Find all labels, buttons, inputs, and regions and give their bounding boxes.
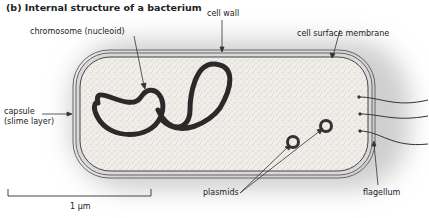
label-capsule: capsule [4,107,35,117]
scale-bar [8,189,151,196]
label-cell-wall: cell wall [207,9,239,19]
label-plasmids: plasmids [203,188,239,198]
label-flagellum: flagellum [363,188,400,198]
label-slime-layer: (slime layer) [4,117,54,127]
cell-surface-membrane [80,57,368,171]
label-scale-bar: 1 µm [70,202,91,212]
label-cell-surface-membrane: cell surface membrane [297,29,389,39]
diagram-title: (b) Internal structure of a bacterium [6,2,202,13]
label-chromosome: chromosome (nucleoid) [30,27,125,37]
